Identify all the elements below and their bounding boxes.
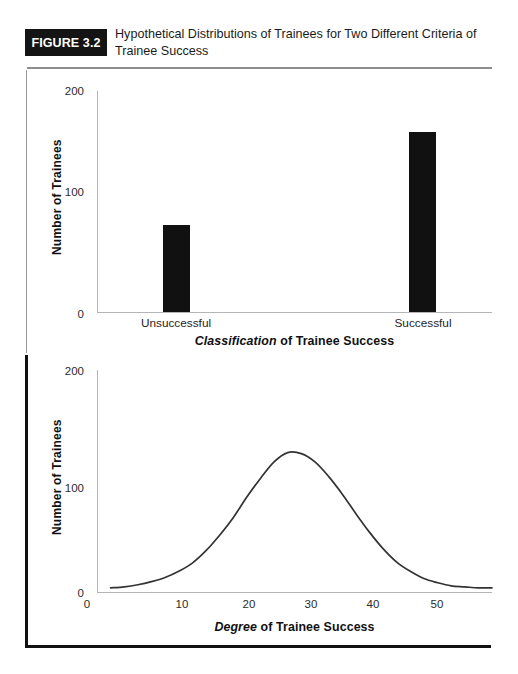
curve-chart-xtick-20: 20 [237, 598, 261, 610]
curve-chart-xtick-10: 10 [170, 598, 194, 610]
normal-distribution-curve [97, 360, 493, 596]
curve-chart-x-axis-title-emphasis: Degree [214, 620, 257, 634]
curve-chart-xtick-30: 30 [299, 598, 323, 610]
curve-chart-xtick-0: 0 [75, 598, 99, 610]
curve-chart-x-axis-title-rest: of Trainee Success [257, 620, 375, 634]
curve-chart-x-axis-title: Degree of Trainee Success [97, 620, 492, 634]
curve-chart-panel: Number of Trainees 200 100 0 0 10 20 30 … [0, 0, 518, 674]
curve-chart-y-axis-title: Number of Trainees [50, 419, 64, 535]
curve-chart-xtick-40: 40 [361, 598, 385, 610]
curve-chart-ytick-200: 200 [58, 365, 84, 377]
curve-chart-ytick-100: 100 [58, 482, 84, 494]
curve-chart-xtick-50: 50 [425, 598, 449, 610]
figure-container: FIGURE 3.2 Hypothetical Distributions of… [0, 0, 518, 674]
